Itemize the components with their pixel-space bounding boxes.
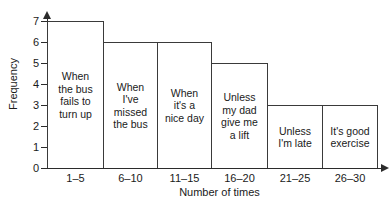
x-tick-label-11-15: 11–15 (157, 172, 212, 184)
bar-annotation-11-15: When it's a nice day (163, 87, 206, 125)
x-tick-label-21-25: 21–25 (267, 172, 323, 184)
x-axis-line (47, 168, 382, 169)
bar-1-5[interactable]: When the bus fails to turn up (47, 21, 104, 169)
bar-annotation-26-30: It's good exercise (328, 125, 371, 150)
x-tick-label-6-10: 6–10 (103, 172, 158, 184)
bar-6-10[interactable]: When I've missed the bus (103, 42, 158, 169)
x-tick-label-26-30: 26–30 (322, 172, 378, 184)
histogram-chart: Frequency 0 1 2 3 4 5 6 7 When the bus f… (0, 0, 392, 203)
x-tick-label-16-20: 16–20 (211, 172, 268, 184)
x-tick-label-1-5: 1–5 (47, 172, 104, 184)
bar-26-30[interactable]: It's good exercise (322, 105, 378, 169)
bar-annotation-21-25: Unless I'm late (276, 125, 314, 150)
bar-annotation-6-10: When I've missed the bus (111, 81, 149, 131)
bar-annotation-16-20: Unless my dad give me a lift (219, 91, 260, 141)
bar-annotation-1-5: When the bus fails to turn up (56, 70, 94, 120)
bar-11-15[interactable]: When it's a nice day (157, 42, 212, 169)
bar-16-20[interactable]: Unless my dad give me a lift (211, 63, 268, 169)
x-axis-arrow-icon (381, 164, 389, 172)
bar-21-25[interactable]: Unless I'm late (267, 105, 323, 169)
x-axis-title: Number of times (0, 186, 392, 198)
